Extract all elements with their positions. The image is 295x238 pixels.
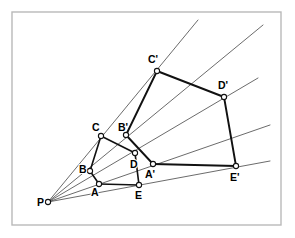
- vertex-marker-B1: [123, 132, 128, 137]
- vertex-label-E1: E': [230, 171, 240, 183]
- vertex-marker-C: [98, 133, 103, 138]
- vertex-label-D: D: [130, 158, 138, 170]
- vertex-label-C: C: [92, 121, 100, 133]
- diagram-canvas: PABCDEA'B'C'D'E': [0, 0, 295, 238]
- vertex-label-C1: C': [148, 53, 158, 65]
- vertex-marker-B: [87, 168, 92, 173]
- vertex-label-D1: D': [218, 79, 228, 91]
- edge-E-A: [99, 184, 139, 185]
- vertex-marker-E: [136, 182, 141, 187]
- homothety-diagram: PABCDEA'B'C'D'E': [0, 0, 295, 238]
- vertex-label-A: A: [91, 186, 99, 198]
- vertex-marker-C1: [154, 68, 159, 73]
- vertex-label-E: E: [135, 189, 142, 201]
- vertex-label-P: P: [37, 196, 44, 208]
- vertex-label-B1: B': [118, 121, 128, 133]
- vertex-label-B: B: [79, 163, 87, 175]
- vertex-label-A1: A': [145, 168, 155, 180]
- vertex-marker-D: [132, 150, 137, 155]
- diagram-frame-border: [12, 12, 281, 225]
- vertex-marker-P: [45, 199, 50, 204]
- vertex-marker-E1: [233, 163, 238, 168]
- vertex-marker-D1: [221, 94, 226, 99]
- vertex-marker-A1: [150, 161, 155, 166]
